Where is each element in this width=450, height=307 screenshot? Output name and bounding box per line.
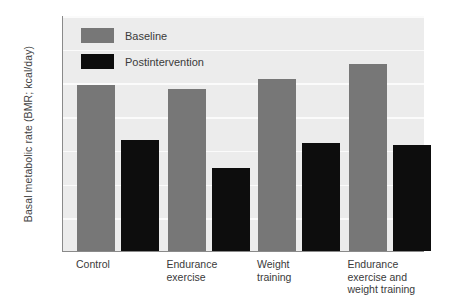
bar-postintervention xyxy=(212,168,250,251)
y-axis-title: Basal metabolic rate (BMR; kcal/day) xyxy=(22,14,34,254)
legend-label-baseline: Baseline xyxy=(125,30,167,42)
bar-chart-figure: Basal metabolic rate (BMR; kcal/day) 120… xyxy=(0,0,450,307)
bar-baseline xyxy=(168,89,206,251)
plot-area: Baseline Postintervention xyxy=(62,16,424,252)
legend-swatch-baseline xyxy=(81,28,114,43)
bar-group xyxy=(349,16,440,251)
x-tick-label: Control xyxy=(76,258,110,271)
bar-postintervention xyxy=(393,145,431,251)
legend: Baseline Postintervention xyxy=(81,28,204,80)
legend-item-postintervention: Postintervention xyxy=(81,54,204,69)
bar-baseline xyxy=(77,85,115,251)
x-tick-label: Endurance exercise xyxy=(167,258,218,283)
bar-postintervention xyxy=(121,140,159,251)
legend-swatch-postintervention xyxy=(81,54,114,69)
bar-postintervention xyxy=(302,143,340,251)
bar-group xyxy=(258,16,349,251)
legend-item-baseline: Baseline xyxy=(81,28,204,43)
x-tick-label: Endurance exercise and weight training xyxy=(348,258,416,296)
bar-baseline xyxy=(258,79,296,251)
bar-baseline xyxy=(349,64,387,251)
x-tick-label: Weight training xyxy=(257,258,291,283)
legend-label-postintervention: Postintervention xyxy=(125,56,204,68)
